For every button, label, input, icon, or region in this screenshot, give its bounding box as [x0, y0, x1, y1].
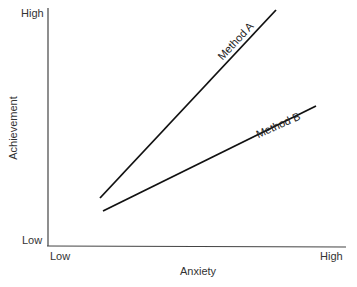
y-axis-title: Achievement: [7, 96, 19, 160]
x-tick-high: High: [320, 250, 343, 262]
x-axis-title: Anxiety: [180, 265, 216, 277]
x-tick-low: Low: [50, 250, 70, 262]
y-tick-low: Low: [22, 234, 42, 246]
chart-canvas: [0, 0, 357, 287]
x-axis: [47, 246, 346, 247]
y-tick-high: High: [21, 7, 44, 19]
